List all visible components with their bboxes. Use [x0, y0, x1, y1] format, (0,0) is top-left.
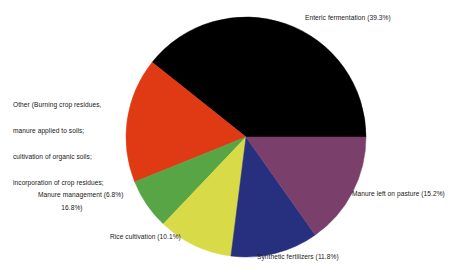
pie-chart: Enteric fermentation (39.3%) Manure left…: [0, 0, 467, 275]
slice-label-other-line-2: manure applied to soils;: [13, 127, 131, 136]
slice-label-enteric-fermentation: Enteric fermentation (39.3%): [305, 14, 391, 23]
slice-label-other-line-3: cultivation of organic soils;: [13, 153, 131, 162]
slice-label-other-line-1: Other (Burning crop residues,: [13, 101, 131, 110]
slice-label-other-line-4: incorporation of crop residues;: [13, 179, 131, 188]
slice-label-rice-cultivation: Rice cultivation (10.1%): [110, 233, 181, 242]
slice-label-manure-left-on-pasture: Manure left on pasture (15.2%): [352, 190, 445, 199]
slice-label-synthetic-fertilizers: Synthetic fertilizers (11.8%): [257, 253, 339, 262]
slice-label-other: Other (Burning crop residues, manure app…: [13, 84, 131, 230]
slice-label-other-line-5: 16.8%): [13, 204, 131, 213]
